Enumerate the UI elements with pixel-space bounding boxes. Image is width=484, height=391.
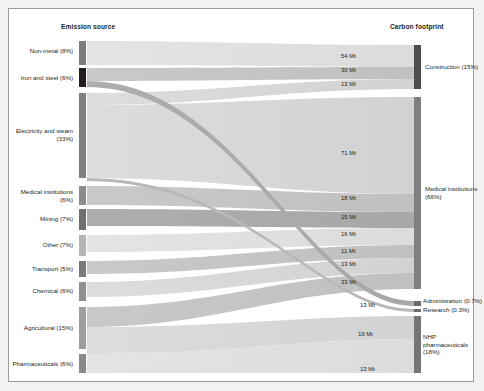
flow-value-label: 15 Mt — [341, 214, 356, 220]
flow-electricity-to-medical — [87, 97, 414, 194]
sankey-diagram-figure: Emission source Carbon footprint — [0, 0, 484, 391]
source-label-transport: Transport (5%) — [9, 265, 73, 273]
node-bar-non-metal[interactable] — [79, 41, 86, 65]
flow-value-label: 13 Mt — [341, 81, 356, 87]
node-bar-pharmaceuticals[interactable] — [79, 354, 86, 373]
node-bar-transport[interactable] — [79, 261, 86, 277]
node-bar-medical-institutions-target[interactable] — [414, 97, 421, 289]
target-label-medical-institutions: Medical institutions (66%) — [425, 185, 481, 200]
target-label-construction: Construction (15%) — [425, 63, 481, 71]
node-bar-administration[interactable] — [414, 301, 421, 306]
source-label-chemical: Chemical (6%) — [9, 287, 73, 295]
source-label-iron-and-steel: Iron and steel (6%) — [9, 74, 73, 82]
flow-value-label: 18 Mt — [341, 195, 356, 201]
flow-value-label: 33 Mt — [341, 279, 356, 285]
source-label-agricultural: Agricultural (15%) — [9, 324, 73, 332]
source-label-non-metal: Non-metal (8%) — [9, 47, 73, 55]
node-bar-agricultural[interactable] — [79, 307, 86, 349]
node-bar-chemical[interactable] — [79, 282, 86, 301]
node-bar-electricity-and-steam[interactable] — [79, 93, 86, 178]
source-label-other: Other (7%) — [9, 241, 73, 249]
node-bar-iron-and-steel[interactable] — [79, 68, 86, 87]
flow-value-label: 71 Mt — [341, 150, 356, 156]
source-label-pharmaceuticals: Pharmaceuticals (6%) — [9, 360, 73, 368]
source-label-medical-institutions: Medical institutions (6%) — [9, 188, 73, 203]
flow-non-metal-to-construction — [87, 41, 414, 67]
flow-value-label: 16 Mt — [341, 231, 356, 237]
flow-value-label: 13 Mt — [360, 366, 375, 372]
chart-panel: Emission source Carbon footprint — [8, 8, 474, 382]
target-label-research: Research (0.3%) — [423, 306, 483, 314]
source-label-mining: Mining (7%) — [9, 215, 73, 223]
node-bar-medical-institutions-source[interactable] — [79, 186, 86, 205]
flow-value-label: 54 Mt — [341, 53, 356, 59]
flow-value-label: 13 Mt — [360, 302, 375, 308]
target-label-administration: Administration (0.7%) — [423, 297, 483, 305]
flow-value-label: 11 Mt — [341, 248, 356, 254]
target-label-nhp-pharmaceuticals: NHP pharmaceuticals (18%) — [423, 333, 479, 356]
node-bar-nhp-pharmaceuticals[interactable] — [414, 316, 421, 373]
node-bar-mining[interactable] — [79, 209, 86, 230]
node-bar-research[interactable] — [414, 309, 421, 312]
node-bar-other[interactable] — [79, 235, 86, 256]
flow-value-label: 30 Mt — [341, 67, 356, 73]
node-bar-construction[interactable] — [414, 45, 421, 89]
flow-value-label: 19 Mt — [358, 331, 373, 337]
flow-iron-steel-to-construction — [87, 67, 414, 81]
flow-mining-to-medical — [87, 209, 414, 228]
source-label-electricity-and-steam: Electricity and steam (33%) — [9, 127, 73, 142]
flow-value-label: 13 Mt — [341, 261, 356, 267]
